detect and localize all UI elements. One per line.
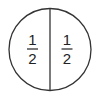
right-numerator: 1 — [63, 31, 71, 48]
left-half-fraction: 1 2 — [27, 31, 38, 67]
fraction-circle-diagram: 1 2 1 2 — [0, 0, 96, 97]
left-numerator: 1 — [28, 31, 36, 48]
right-denominator: 2 — [63, 50, 71, 67]
left-denominator: 2 — [28, 50, 36, 67]
right-half-fraction: 1 2 — [62, 31, 73, 67]
